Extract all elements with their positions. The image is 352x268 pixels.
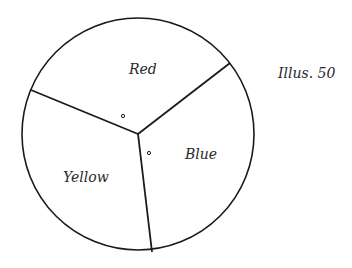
spinner: Red Blue Yellow	[22, 18, 254, 252]
marker-dot-1	[121, 114, 124, 117]
divider-red-yellow	[31, 90, 138, 134]
marker-dot-2	[147, 151, 150, 154]
spinner-diagram: Red Blue Yellow Illus. 50	[0, 0, 352, 268]
section-label-yellow: Yellow	[63, 169, 109, 185]
section-label-blue: Blue	[184, 146, 217, 162]
section-label-red: Red	[128, 61, 157, 77]
illustration-caption: Illus. 50	[277, 65, 335, 81]
